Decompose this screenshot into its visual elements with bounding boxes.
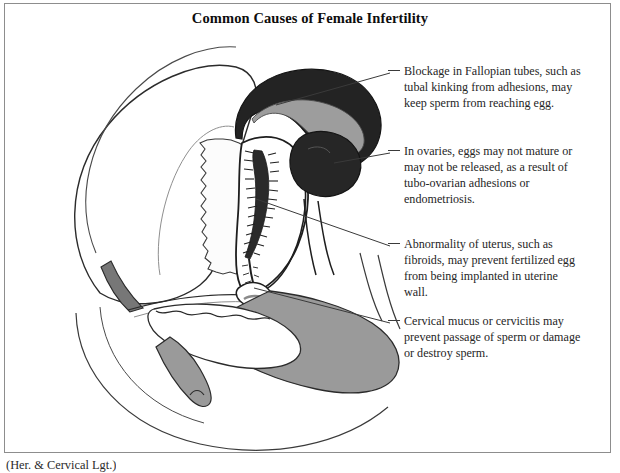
callout-in-ovaries-eggs-may-not-mature: In ovaries, eggs may not mature or may n… xyxy=(404,143,582,207)
broad-ligament-strand-2 xyxy=(318,201,334,275)
callout-text-uterus: Abnormality of uterus, such as fibroids,… xyxy=(404,237,575,299)
callout-dash-tubes xyxy=(388,70,400,71)
ovary xyxy=(290,131,361,196)
callout-dash-ovaries xyxy=(388,150,400,151)
callout-abnormality-of-uterus: Abnormality of uterus, such as fibroids,… xyxy=(404,236,582,300)
callout-blockage-in-fallopian-tubes: Blockage in Fallopian tubes, such as tub… xyxy=(404,63,582,111)
posterior-wall-contour xyxy=(378,255,400,329)
callout-dash-uterus xyxy=(388,243,400,244)
callout-cervical-mucus-or-cervicitis: Cervical mucus or cervicitis may prevent… xyxy=(404,313,582,361)
callout-text-cervix: Cervical mucus or cervicitis may prevent… xyxy=(404,314,580,360)
posterior-wall-contour-2 xyxy=(360,253,382,321)
callout-text-tubes: Blockage in Fallopian tubes, such as tub… xyxy=(404,64,581,110)
callout-dash-cervix xyxy=(388,320,400,321)
callout-text-ovaries: In ovaries, eggs may not mature or may n… xyxy=(404,144,572,206)
figure-caption: (Her. & Cervical Lgt.) xyxy=(6,458,116,473)
infertility-figure: Common Causes of Female Infertility xyxy=(0,0,620,473)
